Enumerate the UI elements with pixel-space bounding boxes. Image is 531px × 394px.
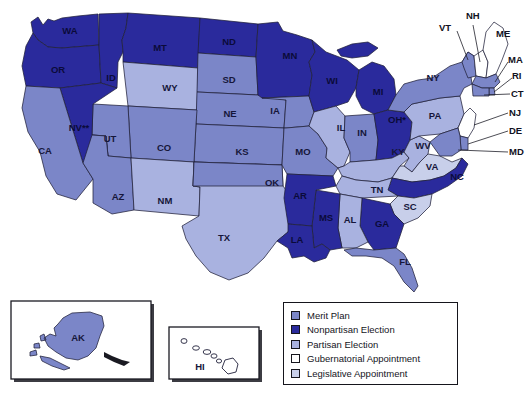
leader-line-MD xyxy=(458,150,508,152)
legend-label-gubernatorial-appointment: Gubernatorial Appointment xyxy=(307,354,420,364)
state-NM[interactable] xyxy=(131,158,200,216)
state-label-WV: WV xyxy=(415,140,431,151)
legend-item-partisan-election[interactable]: Partisan Election xyxy=(291,337,457,352)
state-label-AL: AL xyxy=(344,214,357,225)
state-label-OR: OR xyxy=(51,64,65,75)
state-label-NY: NY xyxy=(426,72,440,83)
state-label-ND: ND xyxy=(222,36,236,47)
state-label-MT: MT xyxy=(153,42,167,53)
legend-label-merit-plan: Merit Plan xyxy=(307,311,350,321)
state-label-MI: MI xyxy=(373,86,384,97)
state-callout-VT: VT xyxy=(439,22,451,33)
contiguous-states-layer xyxy=(22,13,508,292)
state-label-OH: OH* xyxy=(388,114,406,125)
state-callout-MD: MD xyxy=(509,146,524,157)
hawaii-inset-frame xyxy=(169,327,259,379)
state-label-AR: AR xyxy=(293,190,307,201)
state-CO[interactable] xyxy=(128,106,197,162)
alaska-inset: AK xyxy=(11,301,154,382)
inset-label-AK: AK xyxy=(71,332,85,343)
hawaii-inset: HI xyxy=(169,327,262,382)
state-label-MS: MS xyxy=(319,212,333,223)
legend-item-nonpartisan-election[interactable]: Nonpartisan Election xyxy=(291,323,457,338)
map-legend: Merit Plan Nonpartisan Election Partisan… xyxy=(283,302,458,385)
state-label-LA: LA xyxy=(291,234,304,245)
state-label-VA: VA xyxy=(426,161,439,172)
legend-label-legislative-appointment: Legislative Appointment xyxy=(307,369,407,379)
state-callout-NH: NH xyxy=(466,10,480,21)
inset-label-HI: HI xyxy=(195,361,205,372)
legend-swatch-merit-plan xyxy=(291,311,300,320)
legend-swatch-partisan-election xyxy=(291,340,300,349)
state-label-CO: CO xyxy=(157,142,171,153)
state-label-OK: OK xyxy=(265,177,279,188)
legend-label-partisan-election: Partisan Election xyxy=(307,340,378,350)
state-label-GA: GA xyxy=(375,218,389,229)
state-callout-ME: ME xyxy=(496,28,510,39)
state-label-IA: IA xyxy=(270,105,280,116)
state-label-WY: WY xyxy=(162,82,178,93)
state-KS[interactable] xyxy=(194,124,284,165)
legend-item-legislative-appointment[interactable]: Legislative Appointment xyxy=(291,366,457,381)
state-label-WI: WI xyxy=(326,75,338,86)
leader-line-DE xyxy=(468,131,508,144)
legend-swatch-gubernatorial-appointment xyxy=(291,354,300,363)
legend-item-merit-plan[interactable]: Merit Plan xyxy=(291,308,457,323)
state-label-MN: MN xyxy=(283,50,298,61)
state-label-AZ: AZ xyxy=(112,191,125,202)
state-label-NM: NM xyxy=(158,195,173,206)
state-callout-DE: DE xyxy=(509,125,522,136)
state-label-CA: CA xyxy=(38,145,52,156)
legend-item-gubernatorial-appointment[interactable]: Gubernatorial Appointment xyxy=(291,352,457,367)
state-label-IN: IN xyxy=(357,127,367,138)
state-label-KS: KS xyxy=(235,146,248,157)
state-label-ID: ID xyxy=(106,72,116,83)
state-label-FL: FL xyxy=(399,256,411,267)
legend-swatch-legislative-appointment xyxy=(291,369,300,378)
legend-label-nonpartisan-election: Nonpartisan Election xyxy=(307,325,395,335)
legend-swatch-nonpartisan-election xyxy=(291,325,300,334)
state-label-SD: SD xyxy=(222,74,235,85)
state-label-NE: NE xyxy=(223,108,236,119)
state-callout-RI: RI xyxy=(512,70,522,81)
state-label-WA: WA xyxy=(62,25,77,36)
state-label-TX: TX xyxy=(218,232,231,243)
state-label-UT: UT xyxy=(104,133,117,144)
state-label-KY: KY xyxy=(391,146,405,157)
leader-line-VT xyxy=(457,31,468,60)
state-label-PA: PA xyxy=(429,110,442,121)
state-WY[interactable] xyxy=(123,62,198,110)
state-MT[interactable] xyxy=(122,13,200,68)
state-label-TN: TN xyxy=(371,184,384,195)
state-label-SC: SC xyxy=(403,201,416,212)
state-label-MO: MO xyxy=(295,146,310,157)
leader-line-NJ xyxy=(474,113,508,125)
state-label-IL: IL xyxy=(337,122,346,133)
state-callout-MA: MA xyxy=(508,54,523,65)
state-callout-NJ: NJ xyxy=(509,107,521,118)
state-label-NC: NC xyxy=(450,171,464,182)
state-label-NV: NV** xyxy=(69,122,90,133)
state-callout-CT: CT xyxy=(511,88,524,99)
